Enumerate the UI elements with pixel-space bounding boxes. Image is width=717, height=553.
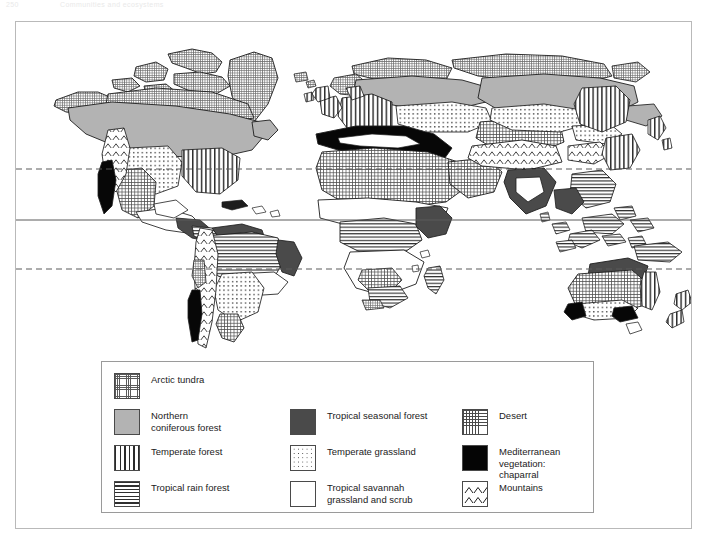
- swatch-arctic-tundra: [114, 373, 140, 399]
- legend-label-tropical-rain-forest: Tropical rain forest: [151, 480, 229, 494]
- swatch-tropical-rain-forest: [114, 481, 140, 507]
- legend-grid: Arctic tundra Northern coniferous forest…: [102, 362, 593, 512]
- legend-label-mediterranean-chaparral: Mediterranean vegetation: chaparral: [499, 444, 602, 481]
- legend-label-northern-coniferous-forest: Northern coniferous forest: [151, 408, 221, 433]
- continent-asia: [448, 54, 672, 252]
- legend-item-arctic-tundra[interactable]: Arctic tundra: [114, 372, 289, 408]
- legend-item-northern-coniferous-forest[interactable]: Northern coniferous forest: [114, 408, 289, 444]
- continent-south-america: [188, 224, 302, 348]
- legend-item-tropical-savannah[interactable]: Tropical savannah grassland and scrub: [290, 480, 465, 516]
- legend-item-mediterranean-chaparral[interactable]: Mediterranean vegetation: chaparral: [462, 444, 602, 480]
- running-head-title: Communities and ecosystems: [60, 1, 164, 8]
- continent-north-america: [54, 49, 280, 244]
- world-biome-map: [16, 22, 691, 362]
- swatch-mountains: [462, 481, 488, 507]
- swatch-tropical-savannah: [290, 481, 316, 507]
- legend-label-mountains: Mountains: [499, 480, 543, 494]
- region-europe: [294, 58, 492, 162]
- legend-label-tropical-seasonal-forest: Tropical seasonal forest: [327, 408, 428, 422]
- legend-label-temperate-grassland: Temperate grassland: [327, 444, 416, 458]
- running-head-page-number: 250: [6, 1, 19, 8]
- swatch-mediterranean-chaparral: [462, 445, 488, 471]
- legend-item-temperate-forest[interactable]: Temperate forest: [114, 444, 289, 480]
- legend-column-2: Tropical seasonal forest Temperate grass…: [290, 372, 465, 516]
- swatch-desert: [462, 409, 488, 435]
- legend-column-1: Arctic tundra Northern coniferous forest…: [114, 372, 289, 516]
- continent-australia: [564, 242, 691, 334]
- legend-item-tropical-rain-forest[interactable]: Tropical rain forest: [114, 480, 289, 516]
- legend-label-arctic-tundra: Arctic tundra: [151, 372, 204, 386]
- legend-item-tropical-seasonal-forest[interactable]: Tropical seasonal forest: [290, 408, 465, 444]
- swatch-temperate-forest: [114, 445, 140, 471]
- legend-label-temperate-forest: Temperate forest: [151, 444, 222, 458]
- legend-label-desert: Desert: [499, 408, 527, 422]
- continent-africa: [316, 148, 468, 310]
- legend-item-temperate-grassland[interactable]: Temperate grassland: [290, 444, 465, 480]
- legend-column-3: Desert Mediterranean vegetation: chaparr…: [462, 372, 602, 516]
- mountains-chevron-icon: [463, 482, 488, 507]
- map-legend: Arctic tundra Northern coniferous forest…: [101, 361, 594, 513]
- legend-item-mountains[interactable]: Mountains: [462, 480, 602, 516]
- running-head: 250 Communities and ecosystems: [0, 0, 717, 14]
- legend-item-desert[interactable]: Desert: [462, 408, 602, 444]
- swatch-tropical-seasonal-forest: [290, 409, 316, 435]
- figure-frame: Arctic tundra Northern coniferous forest…: [15, 21, 692, 529]
- legend-label-tropical-savannah: Tropical savannah grassland and scrub: [327, 480, 413, 505]
- swatch-temperate-grassland: [290, 445, 316, 471]
- swatch-northern-coniferous-forest: [114, 409, 140, 435]
